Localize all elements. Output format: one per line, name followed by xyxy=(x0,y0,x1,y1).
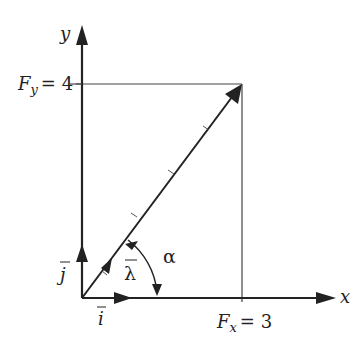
vector-tick xyxy=(168,170,174,174)
x-axis-label: x xyxy=(340,286,350,307)
angle-alpha-label: α xyxy=(163,245,176,267)
fy-label: Fy= 4 xyxy=(17,73,82,97)
fx-value: = 3 xyxy=(240,311,272,332)
svg-text:i: i xyxy=(98,308,104,329)
svg-text:λ: λ xyxy=(124,262,136,284)
fy-subscript: y xyxy=(30,82,39,97)
i-unit-vector-arrowhead-icon xyxy=(114,292,132,304)
force-vector-arrowhead-icon xyxy=(225,84,242,104)
fy-value: = 4 xyxy=(41,73,73,94)
angle-arc-arrowhead-bottom-icon xyxy=(152,284,162,296)
svg-text:Fx= 3: Fx= 3 xyxy=(216,311,272,335)
y-axis-arrowhead-icon xyxy=(76,25,88,45)
diagram-canvas: y x Fy= 4 Fx= 3 j i λ α xyxy=(0,0,363,344)
j-unit-vector-arrowhead-icon xyxy=(76,244,88,262)
fx-label: Fx= 3 xyxy=(216,311,272,335)
force-vector-diagram: y x Fy= 4 Fx= 3 j i λ α xyxy=(0,0,363,344)
x-axis-arrowhead-icon xyxy=(316,292,336,304)
i-unit-label: i xyxy=(97,307,106,329)
y-axis-label: y xyxy=(59,23,71,44)
svg-text:j: j xyxy=(56,264,66,285)
fx-subscript: x xyxy=(230,320,238,335)
vector-tick xyxy=(131,213,137,217)
j-unit-label: j xyxy=(56,262,70,285)
svg-text:Fy= 4: Fy= 4 xyxy=(17,73,73,97)
lambda-unit-label: λ xyxy=(124,260,137,284)
